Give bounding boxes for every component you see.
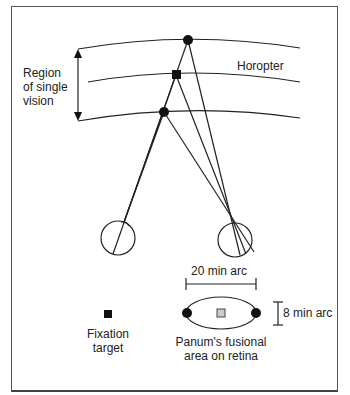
horopter-label: Horopter <box>237 59 284 73</box>
panum-right-dot-icon <box>251 308 261 318</box>
near-point-icon <box>159 107 169 117</box>
region-label-line1: Region <box>23 66 68 80</box>
panum-label: Panum's fusional area on retina <box>170 335 272 363</box>
near-right-ray <box>164 112 254 252</box>
width-arc-label: 20 min arc <box>191 264 247 278</box>
panum-center-square-icon <box>217 309 225 317</box>
fixation-label-line1: Fixation <box>80 327 136 341</box>
fixation-label-line2: target <box>80 341 136 355</box>
arrow-down-icon <box>74 112 82 121</box>
fixation-target-icon <box>104 310 112 318</box>
panum-label-line1: Panum's fusional <box>170 335 272 349</box>
fixation-point-icon <box>172 70 181 79</box>
far-point-icon <box>183 35 193 45</box>
region-label-line2: of single <box>23 80 68 94</box>
horopter-arc <box>88 73 300 82</box>
inner-region-arc <box>78 111 300 121</box>
fix-right-ray <box>176 75 246 254</box>
panum-label-line2: area on retina <box>170 349 272 363</box>
region-label-line3: vision <box>23 94 68 108</box>
height-arc-label: 8 min arc <box>283 306 332 320</box>
fixation-target-label: Fixation target <box>80 327 136 355</box>
panum-left-dot-icon <box>182 308 192 318</box>
region-label: Region of single vision <box>23 66 68 108</box>
arrow-up-icon <box>74 49 82 58</box>
